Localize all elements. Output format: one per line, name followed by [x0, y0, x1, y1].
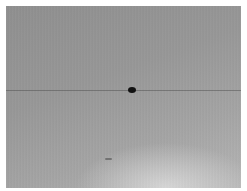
- horizontal-line: [6, 90, 241, 91]
- small-mark: [105, 158, 112, 160]
- dark-spot: [128, 87, 136, 93]
- surface-texture: [6, 6, 241, 188]
- photo: [6, 6, 241, 188]
